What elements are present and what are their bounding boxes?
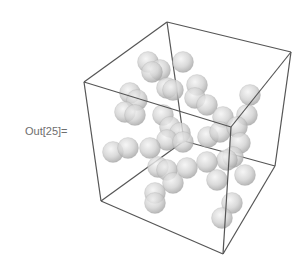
sphere <box>197 152 218 173</box>
sphere <box>163 173 184 194</box>
sphere <box>140 138 161 159</box>
box-edge <box>167 22 291 52</box>
box-edge <box>84 82 101 201</box>
3d-sphere-box-graphic[interactable] <box>0 0 307 269</box>
sphere <box>207 170 228 191</box>
box-edge <box>223 127 231 254</box>
sphere <box>217 150 238 171</box>
sphere <box>125 105 146 126</box>
sphere <box>235 165 256 186</box>
sphere <box>145 193 166 214</box>
sphere <box>142 62 163 83</box>
sphere <box>212 208 233 229</box>
spheres-group <box>103 52 261 229</box>
sphere <box>118 138 139 159</box>
sphere <box>163 80 184 101</box>
sphere <box>173 52 194 73</box>
sphere <box>173 132 194 153</box>
